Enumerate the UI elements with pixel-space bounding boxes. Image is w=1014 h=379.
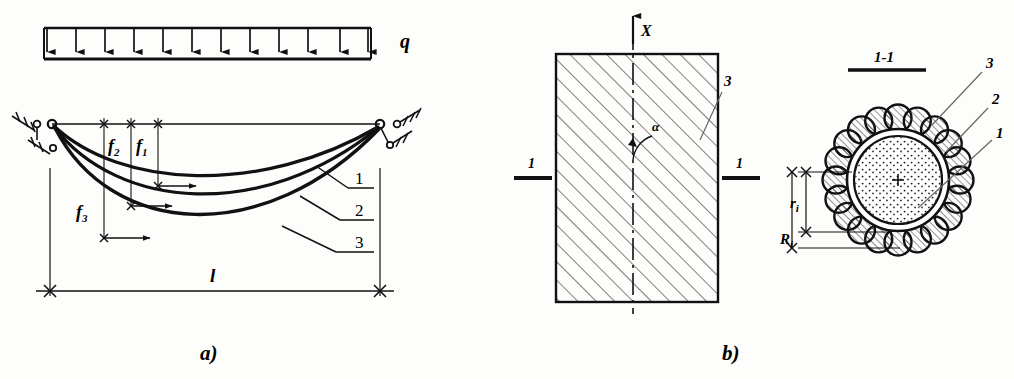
- curve-callout-labels: 1 2 3: [355, 169, 364, 252]
- span-label-l: l: [210, 265, 216, 286]
- rect-callout-3-label: 3: [723, 73, 732, 89]
- right-support: [376, 108, 421, 148]
- callout-label-2: 2: [355, 201, 364, 220]
- load-symbol-q: q: [400, 30, 410, 53]
- detail-callout-labels: 3 2 1: [985, 55, 1004, 141]
- detail-section-title: 1-1: [848, 49, 926, 70]
- alpha-angle-label: α: [652, 119, 660, 134]
- callout-label-3: 3: [355, 233, 364, 252]
- caption-part-a: a): [200, 341, 218, 365]
- engineering-figure: q: [0, 0, 1014, 379]
- section-mark-left-label: 1: [528, 156, 535, 171]
- rect-cross-section: [556, 54, 718, 302]
- detail-title-label: 1-1: [874, 49, 894, 65]
- detail-callout-1-label: 1: [996, 125, 1004, 141]
- figure-canvas: q: [0, 0, 1014, 379]
- sag-label-f2: f2: [108, 136, 120, 158]
- left-support: [12, 112, 56, 154]
- detail-callout-2-label: 2: [991, 91, 1000, 107]
- caption-part-b: b): [722, 341, 740, 365]
- cable-cross-section: [823, 105, 974, 256]
- section-mark-right-label: 1: [736, 156, 743, 171]
- section-mark-right: 1: [722, 156, 760, 178]
- rect-hatch-fill: [556, 54, 718, 302]
- radius-dimension-labels: ri Ri: [779, 195, 800, 250]
- sag-dimension-lines: [100, 118, 196, 242]
- section-mark-left: 1: [514, 156, 552, 178]
- callout-label-1: 1: [355, 169, 364, 188]
- detail-callout-3-label: 3: [985, 55, 994, 71]
- sag-label-f1: f1: [136, 136, 148, 158]
- distributed-load-block: [44, 28, 371, 59]
- x-axis-label: X: [640, 22, 652, 39]
- load-arrows: [47, 28, 368, 52]
- sag-label-f3: f3: [76, 202, 88, 224]
